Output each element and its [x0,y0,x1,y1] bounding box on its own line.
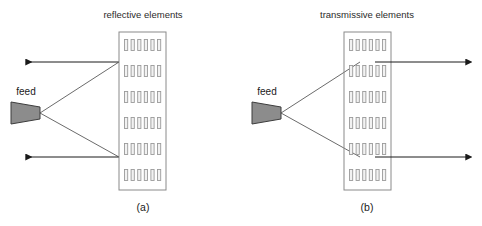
array-element [376,40,379,51]
array-element [376,92,379,103]
array-element [369,144,372,155]
array-element [350,92,353,103]
array-element [151,40,154,51]
array-element [144,144,147,155]
array-element [350,118,353,129]
array-element [376,144,379,155]
array-element [125,92,128,103]
array-element [350,40,353,51]
array-element [125,40,128,51]
antenna-array-diagram: reflective elements feed [0,0,482,226]
figure-background [0,0,482,226]
array-element [363,118,366,129]
array-element [383,118,386,129]
array-element [356,144,359,155]
array-element [383,40,386,51]
array-element [131,92,134,103]
panel-title-reflective: reflective elements [103,9,182,20]
array-element [376,66,379,77]
array-element [138,170,141,181]
array-element [363,40,366,51]
array-element [138,40,141,51]
array-element [131,40,134,51]
array-element [363,170,366,181]
array-element [356,66,359,77]
array-element [131,144,134,155]
array-element [383,66,386,77]
array-element [383,92,386,103]
array-element [356,40,359,51]
array-element [369,118,372,129]
array-element [363,66,366,77]
array-element [363,92,366,103]
array-element [151,118,154,129]
array-element [131,66,134,77]
array-element [369,66,372,77]
array-element [151,144,154,155]
array-element [125,170,128,181]
array-element [363,144,366,155]
array-element [131,170,134,181]
array-element [144,40,147,51]
array-element [144,92,147,103]
array-element [138,66,141,77]
array-element [125,144,128,155]
array-element [151,170,154,181]
array-element [138,144,141,155]
panel-title-transmissive: transmissive elements [320,9,414,20]
array-element [138,92,141,103]
array-element [383,170,386,181]
array-element [369,40,372,51]
feed-label-reflective: feed [16,86,35,97]
array-element [144,118,147,129]
array-element [158,92,161,103]
array-element [158,170,161,181]
array-element [125,66,128,77]
array-element [144,66,147,77]
array-element [144,170,147,181]
array-element [356,92,359,103]
array-element [158,66,161,77]
array-element [383,144,386,155]
caption-a: (a) [137,201,150,213]
array-element [369,92,372,103]
array-element [356,170,359,181]
array-element [151,92,154,103]
array-element [158,144,161,155]
array-element [356,118,359,129]
array-element [158,40,161,51]
array-element [350,170,353,181]
array-element [350,144,353,155]
caption-b: (b) [361,201,374,213]
array-element [376,118,379,129]
array-element [158,118,161,129]
array-element [131,118,134,129]
array-element [376,170,379,181]
array-element [350,66,353,77]
array-element [369,170,372,181]
feed-label-transmissive: feed [257,86,276,97]
array-element [151,66,154,77]
array-element [138,118,141,129]
array-element [125,118,128,129]
